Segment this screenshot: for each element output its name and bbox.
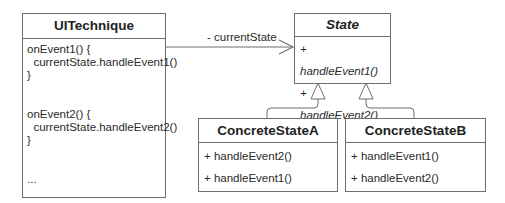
body-line: onEvent1() { (27, 43, 161, 56)
class-uitechnique[interactable]: UITechnique onEvent1() { currentState.ha… (22, 13, 166, 198)
body-line (27, 147, 161, 160)
method: + handleEvent1() (349, 145, 482, 167)
class-concretestateb[interactable]: ConcreteStateB + handleEvent1() + handle… (345, 118, 486, 192)
body-line: } (27, 69, 161, 82)
class-name: State (295, 14, 390, 37)
body-line (27, 82, 161, 95)
method: + handleEvent1() (298, 38, 387, 82)
class-name: ConcreteStateB (346, 119, 485, 143)
method: + handleEvent2() (202, 145, 334, 167)
class-name: ConcreteStateA (199, 119, 337, 143)
association-label: - currentState (207, 31, 277, 43)
body-line (27, 160, 161, 173)
class-name: UITechnique (23, 14, 165, 39)
body-line: } (27, 134, 161, 147)
body-line: onEvent2() { (27, 108, 161, 121)
body-line: currentState.handleEvent1() (27, 56, 161, 69)
body-line (27, 95, 161, 108)
body-line: currentState.handleEvent2() (27, 121, 161, 134)
method: + handleEvent1() (202, 167, 334, 189)
body-line: ... (27, 173, 161, 186)
class-concretestatea[interactable]: ConcreteStateA + handleEvent2() + handle… (198, 118, 338, 192)
class-state[interactable]: State + handleEvent1() + handleEvent2() (294, 13, 391, 84)
method: + handleEvent2() (349, 167, 482, 189)
